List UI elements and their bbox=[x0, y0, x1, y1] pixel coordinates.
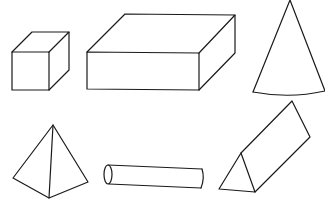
pyramid-shape: Pyramid bbox=[13, 125, 88, 198]
cylinder-edge bbox=[109, 184, 201, 188]
cone-edge bbox=[253, 0, 325, 92]
diagram-svg: CubeRectangular prismConePyramidCylinder… bbox=[0, 0, 325, 200]
rectangular-prism-shape: Rectangular prism bbox=[87, 14, 235, 90]
cylinder-edge bbox=[108, 165, 202, 169]
cylinder-shape: Cylinder bbox=[104, 165, 203, 188]
rectangular-prism-edge bbox=[87, 52, 199, 90]
cube-edge bbox=[12, 52, 49, 90]
geometric-solids-diagram: CubeRectangular prismConePyramidCylinder… bbox=[0, 0, 325, 200]
cube-edge bbox=[12, 32, 69, 52]
cube-shape: Cube bbox=[12, 32, 69, 90]
pyramid-edge bbox=[49, 125, 53, 198]
triangular-prism-shape: Triangular prism bbox=[219, 101, 310, 192]
cylinder-end-ellipse bbox=[104, 165, 112, 184]
shapes-group: CubeRectangular prismConePyramidCylinder… bbox=[12, 0, 325, 198]
cube-edge bbox=[49, 32, 69, 90]
cone-shape: Cone bbox=[253, 0, 325, 95]
rectangular-prism-edge bbox=[199, 15, 235, 90]
triangular-prism-edge bbox=[219, 153, 255, 192]
triangular-prism-edge bbox=[241, 101, 310, 192]
cone-edge bbox=[253, 91, 325, 95]
cylinder-edge bbox=[201, 169, 203, 188]
rectangular-prism-edge bbox=[87, 14, 235, 53]
